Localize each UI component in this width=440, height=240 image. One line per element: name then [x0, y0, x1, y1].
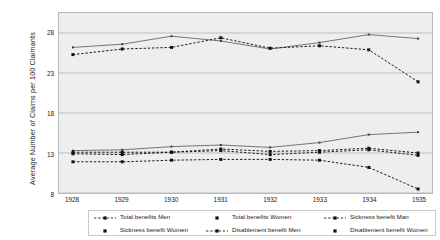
data-point — [220, 144, 222, 146]
legend-key-icon — [323, 227, 347, 235]
data-point — [318, 159, 321, 162]
y-tick-label: 28 — [24, 29, 54, 36]
legend-key-icon — [93, 227, 117, 235]
data-point — [368, 34, 370, 36]
legend-key-icon — [205, 214, 229, 222]
data-point — [121, 153, 124, 156]
data-point — [171, 146, 173, 148]
legend-item[interactable]: Sickness benefit Man — [321, 214, 437, 222]
data-point — [121, 149, 123, 151]
series-line — [73, 159, 418, 189]
legend-item[interactable]: Total benefits Women — [203, 214, 321, 222]
legend-label: Sickness benefit Man — [350, 214, 409, 220]
x-tick-label: 1928 — [65, 196, 79, 203]
data-point — [219, 149, 222, 152]
data-point — [417, 131, 419, 133]
data-point — [171, 35, 173, 37]
legend-item[interactable]: Sickness benefit Women — [91, 227, 203, 235]
data-point — [269, 158, 272, 161]
data-point — [170, 46, 173, 49]
legend-key-icon — [323, 214, 347, 222]
chart-figure: Average Number of Claims per 100 Claiman… — [0, 0, 440, 240]
plot-area — [58, 12, 433, 194]
legend-label: Disablement benefit Men — [232, 227, 300, 233]
legend-item[interactable]: Disablement benefit Women — [321, 227, 437, 235]
data-point — [71, 53, 74, 56]
data-point — [72, 46, 74, 48]
legend-key-icon — [93, 214, 117, 222]
data-point — [269, 150, 272, 153]
data-point — [121, 48, 124, 51]
data-point — [121, 43, 123, 45]
legend-key-icon — [205, 227, 229, 235]
data-point — [368, 134, 370, 136]
legend-label: Disablement benefit Women — [350, 227, 428, 233]
y-axis-ticks: 813182328 — [0, 0, 58, 194]
x-tick-label: 1930 — [164, 196, 178, 203]
data-point — [269, 47, 272, 50]
data-point — [417, 38, 419, 40]
data-point — [318, 42, 320, 44]
legend-label: Total benefits Women — [232, 214, 291, 220]
data-point — [71, 152, 74, 155]
data-point — [367, 148, 370, 151]
legend-item[interactable]: Disablement benefit Men — [203, 227, 321, 235]
data-point — [367, 166, 370, 169]
data-point — [417, 154, 420, 157]
data-point — [121, 160, 124, 163]
x-tick-label: 1929 — [114, 196, 128, 203]
data-point — [269, 153, 272, 156]
x-tick-label: 1934 — [362, 196, 376, 203]
data-point — [219, 158, 222, 161]
data-point — [318, 44, 321, 47]
x-tick-label: 1933 — [313, 196, 327, 203]
data-point — [367, 48, 370, 51]
x-tick-label: 1935 — [412, 196, 426, 203]
legend-label: Sickness benefit Women — [120, 227, 188, 233]
data-point — [417, 80, 420, 83]
x-tick-label: 1931 — [214, 196, 228, 203]
data-point — [170, 151, 173, 154]
data-point — [318, 142, 320, 144]
x-axis-ticks: 19281929193019311932193319341935 — [58, 196, 433, 210]
y-tick-label: 13 — [24, 150, 54, 157]
data-point — [220, 40, 222, 42]
data-point — [219, 36, 222, 39]
plot-svg — [59, 13, 432, 193]
y-tick-label: 18 — [24, 110, 54, 117]
legend-label: Total benefits Men — [120, 214, 170, 220]
series-line — [73, 35, 418, 49]
series-line — [73, 38, 418, 82]
y-tick-label: 23 — [24, 69, 54, 76]
data-point — [170, 159, 173, 162]
data-point — [417, 188, 420, 191]
chart-legend: Total benefits MenTotal benefits WomenSi… — [88, 210, 436, 236]
legend-item[interactable]: Total benefits Men — [91, 214, 203, 222]
x-tick-label: 1932 — [263, 196, 277, 203]
data-point — [269, 146, 271, 148]
data-point — [71, 160, 74, 163]
y-tick-label: 8 — [24, 191, 54, 198]
data-point — [318, 151, 321, 154]
